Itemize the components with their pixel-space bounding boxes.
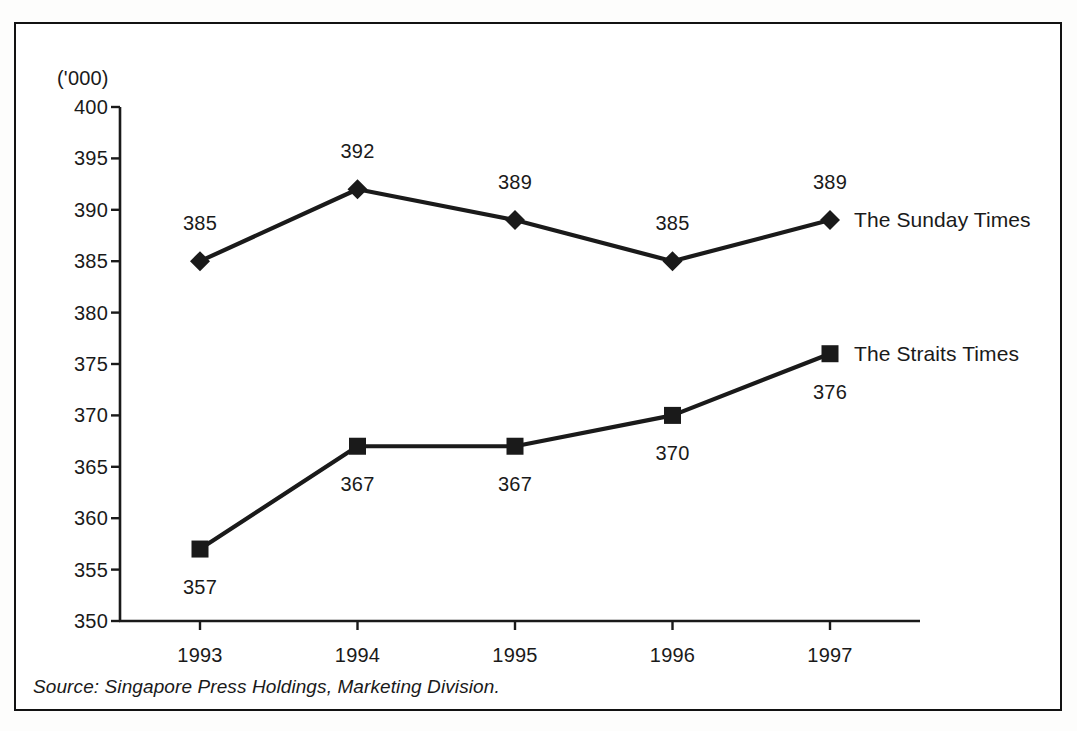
y-axis-tick-label: 370: [52, 405, 108, 425]
y-axis-tick-label: 360: [52, 508, 108, 528]
y-axis-tick-label: 400: [52, 97, 108, 117]
x-axis-tick-label: 1993: [155, 645, 245, 665]
y-axis-tick-label: 355: [52, 560, 108, 580]
y-axis-tick-label: 385: [52, 251, 108, 271]
marker-diamond: [820, 210, 840, 230]
data-point-label: 367: [480, 474, 550, 494]
x-axis-tick-label: 1995: [470, 645, 560, 665]
y-axis-tick-label: 380: [52, 303, 108, 323]
marker-square: [664, 407, 681, 424]
data-point-label: 389: [480, 172, 550, 192]
data-point-label: 370: [638, 443, 708, 463]
data-point-label: 389: [795, 172, 865, 192]
x-axis-tick-label: 1997: [785, 645, 875, 665]
line-chart: ('000) 400395390385380375370365360355350…: [0, 0, 1077, 731]
series-legend-label: The Straits Times: [854, 343, 1019, 364]
marker-diamond: [663, 251, 683, 271]
data-point-label: 385: [638, 213, 708, 233]
y-axis-tick-label: 365: [52, 457, 108, 477]
x-axis-tick-label: 1994: [313, 645, 403, 665]
y-axis-tick-label: 350: [52, 611, 108, 631]
marker-diamond: [348, 179, 368, 199]
y-axis-tick-label: 395: [52, 148, 108, 168]
marker-diamond: [505, 210, 525, 230]
data-point-label: 385: [165, 213, 235, 233]
data-point-label: 357: [165, 577, 235, 597]
marker-square: [349, 438, 366, 455]
marker-diamond: [190, 251, 210, 271]
x-axis-tick-label: 1996: [628, 645, 718, 665]
series-group: [190, 179, 840, 557]
y-axis-tick-label: 375: [52, 354, 108, 374]
data-point-label: 376: [795, 382, 865, 402]
data-point-label: 392: [323, 141, 393, 161]
figure-container: ('000) 400395390385380375370365360355350…: [0, 0, 1077, 731]
marker-square: [507, 438, 524, 455]
data-point-label: 367: [323, 474, 393, 494]
marker-square: [822, 345, 839, 362]
source-note: Source: Singapore Press Holdings, Market…: [33, 676, 500, 698]
chart-canvas: [0, 0, 1077, 731]
marker-square: [192, 541, 209, 558]
series-legend-label: The Sunday Times: [854, 209, 1031, 230]
y-axis-tick-label: 390: [52, 200, 108, 220]
